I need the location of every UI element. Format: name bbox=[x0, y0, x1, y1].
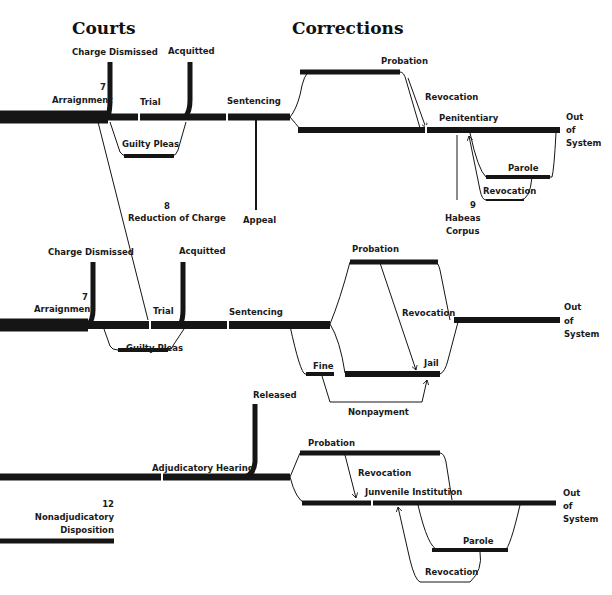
label-habeas: Habeas bbox=[445, 213, 481, 224]
label-released: Released bbox=[253, 390, 297, 401]
label-reduction-of-charge: Reduction of Charge bbox=[128, 213, 226, 224]
label-arraignment-2: Arraignment bbox=[34, 304, 94, 315]
label-system-2: System bbox=[564, 329, 599, 340]
label-charge-dismissed-2: Charge Dismissed bbox=[48, 247, 134, 258]
label-reduction-number: 8 bbox=[164, 201, 170, 212]
label-of: of bbox=[566, 125, 576, 136]
label-probation-3: Probation bbox=[308, 438, 355, 449]
label-of-2: of bbox=[564, 316, 574, 327]
label-trial-2: Trial bbox=[153, 306, 174, 317]
label-revocation-parole-3: Revocation bbox=[425, 567, 478, 578]
label-guilty-pleas: Guilty Pleas bbox=[122, 139, 179, 150]
label-appeal: Appeal bbox=[243, 215, 276, 226]
corrections-header: Corrections bbox=[292, 18, 404, 38]
label-revocation-parole: Revocation bbox=[483, 186, 536, 197]
label-of-3: of bbox=[563, 501, 573, 512]
label-disposition: Disposition bbox=[30, 525, 114, 536]
label-nonpayment: Nonpayment bbox=[348, 407, 409, 418]
label-out-3: Out bbox=[563, 488, 580, 499]
label-probation: Probation bbox=[381, 56, 428, 67]
label-out-2: Out bbox=[564, 302, 581, 313]
label-jail: Jail bbox=[424, 358, 439, 369]
label-adjudicatory-hearing: Adjudicatory Hearing bbox=[152, 463, 254, 474]
courts-header: Courts bbox=[72, 18, 136, 38]
label-arraignment-number: 7 bbox=[90, 82, 106, 93]
label-charge-dismissed: Charge Dismissed bbox=[72, 47, 158, 58]
label-probation-2: Probation bbox=[352, 244, 399, 255]
label-arraignment: Arraignment bbox=[52, 95, 112, 106]
label-nonadjudicatory: Nonadjudicatory bbox=[30, 512, 114, 523]
label-sentencing: Sentencing bbox=[227, 96, 281, 107]
label-arraignment-number-2: 7 bbox=[72, 292, 88, 303]
label-juvenile-institution: Junvenile Institution bbox=[365, 487, 462, 498]
label-acquitted: Acquitted bbox=[168, 46, 215, 57]
label-parole: Parole bbox=[508, 163, 538, 174]
label-acquitted-2: Acquitted bbox=[179, 246, 226, 257]
label-corpus: Corpus bbox=[446, 226, 479, 237]
label-trial: Trial bbox=[140, 97, 161, 108]
label-nonadj-number: 12 bbox=[80, 499, 114, 510]
label-parole-3: Parole bbox=[463, 536, 493, 547]
label-revocation-3: Revocation bbox=[358, 468, 411, 479]
label-system-3: System bbox=[563, 514, 598, 525]
label-habeas-number: 9 bbox=[470, 200, 476, 211]
label-sentencing-2: Sentencing bbox=[229, 307, 283, 318]
label-out: Out bbox=[566, 112, 583, 123]
label-revocation-2: Revocation bbox=[402, 308, 455, 319]
label-guilty-pleas-2: Guilty Pleas bbox=[126, 343, 183, 354]
label-penitentiary: Penitentiary bbox=[439, 113, 498, 124]
label-fine: Fine bbox=[313, 361, 334, 372]
label-revocation: Revocation bbox=[425, 92, 478, 103]
label-system: System bbox=[566, 138, 601, 149]
